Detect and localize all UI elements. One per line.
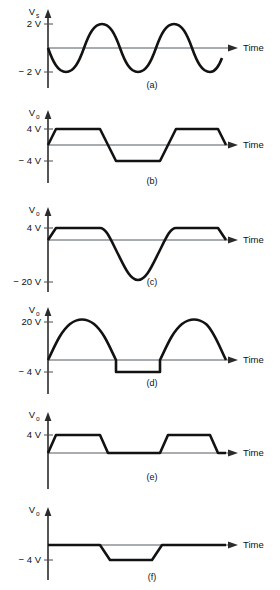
waveform-e (48, 435, 226, 453)
time-axis-arrow-f (228, 542, 238, 549)
y-axis-label-f: V (29, 504, 36, 515)
panel-e: V o 4 V Time (e) (0, 405, 280, 500)
tick-label-pos-b: 4 V (27, 123, 42, 134)
y-axis-label-b: V (29, 107, 36, 118)
y-axis-label-d: V (29, 304, 36, 315)
voltage-axis-arrow-a (45, 9, 52, 18)
tick-label-neg-b: − 4 V (19, 155, 42, 166)
tick-label-neg-d: − 4 V (19, 366, 42, 377)
time-axis-arrow-e (228, 450, 238, 457)
time-axis-arrow-d (228, 357, 238, 364)
y-axis-subscript-c: o (36, 210, 40, 217)
panel-caption-e: (e) (147, 472, 158, 482)
time-label-c: Time (243, 234, 264, 245)
panel-caption-a: (a) (147, 80, 158, 90)
waveform-d (48, 320, 226, 373)
voltage-axis-arrow-d (45, 307, 52, 316)
panel-caption-f: (f) (148, 572, 157, 582)
time-axis-arrow-a (228, 45, 238, 52)
y-axis-label-a: V (29, 6, 36, 17)
waveform-c (48, 228, 226, 280)
y-axis-subscript-b: o (36, 113, 40, 120)
tick-label-neg-c: − 20 V (13, 276, 41, 287)
voltage-axis-arrow-e (45, 412, 52, 421)
tick-label-pos-a: 2 V (27, 18, 42, 29)
y-axis-label-e: V (29, 409, 36, 420)
time-label-b: Time (243, 139, 264, 150)
tick-label-pos-d: 20 V (21, 316, 41, 327)
tick-label-neg-f: − 4 V (19, 554, 42, 565)
voltage-axis-arrow-b (45, 110, 52, 119)
panel-caption-c: (c) (147, 277, 158, 287)
tick-label-pos-e: 4 V (27, 429, 42, 440)
panel-caption-b: (b) (147, 176, 158, 186)
panel-c: V o 4 V − 20 V Time (c) (0, 200, 280, 300)
y-axis-subscript-e: o (36, 415, 40, 422)
time-label-d: Time (243, 354, 264, 365)
voltage-axis-arrow-f (45, 507, 52, 516)
tick-label-pos-c: 4 V (27, 222, 42, 233)
waveform-f (48, 545, 226, 560)
voltage-axis-arrow-c (45, 207, 52, 216)
panel-f: V o − 4 V Time (f) (0, 500, 280, 590)
y-axis-subscript-f: o (36, 510, 40, 517)
time-label-f: Time (243, 539, 264, 550)
panel-d: V o 20 V − 4 V Time (d) (0, 300, 280, 400)
time-axis-arrow-c (228, 237, 238, 244)
panel-a: V s 2 V − 2 V Time (a) (0, 0, 280, 95)
time-axis-arrow-b (228, 142, 238, 149)
time-label-a: Time (243, 42, 264, 53)
waveform-figure: V s 2 V − 2 V Time (a) V o 4 V − 4 V Tim… (0, 0, 280, 590)
time-label-e: Time (243, 447, 264, 458)
y-axis-label-c: V (29, 204, 36, 215)
tick-label-neg-a: − 2 V (19, 66, 42, 77)
panel-caption-d: (d) (147, 378, 158, 388)
panel-b: V o 4 V − 4 V Time (b) (0, 95, 280, 190)
